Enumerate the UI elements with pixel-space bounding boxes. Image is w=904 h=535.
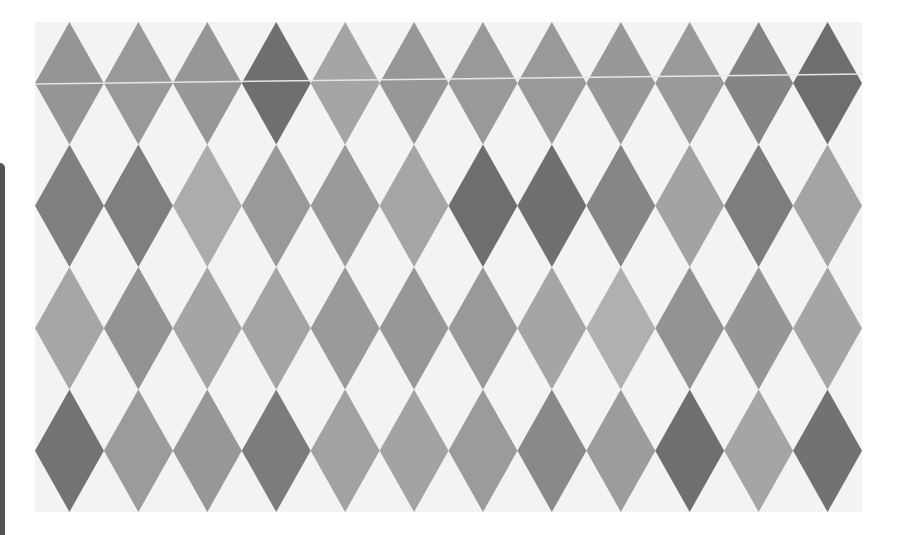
diamond-r3-c12 (793, 267, 862, 390)
diamond-r4-c11 (724, 390, 793, 513)
diamond-r4-c1 (35, 390, 104, 513)
diamond-r2-c4 (242, 145, 311, 268)
diamond-r4-c5 (311, 390, 380, 513)
diamond-r4-c3 (173, 390, 242, 513)
diamond-r4-c7 (449, 390, 518, 513)
diamond-r1-c9 (586, 22, 655, 145)
diamond-r2-c2 (104, 145, 173, 268)
diamond-r3-c2 (104, 267, 173, 390)
diamond-r4-c2 (104, 390, 173, 513)
diamond-r3-c7 (449, 267, 518, 390)
diamond-r4-c12 (793, 390, 862, 513)
diamond-r3-c9 (586, 267, 655, 390)
diamond-r1-c8 (517, 22, 586, 145)
left-edge-bar (0, 163, 5, 535)
diamond-r4-c9 (586, 390, 655, 513)
diamond-r2-c5 (311, 145, 380, 268)
diamond-r3-c10 (655, 267, 724, 390)
diamond-r3-c4 (242, 267, 311, 390)
diamond-r4-c10 (655, 390, 724, 513)
diamond-r1-c11 (724, 22, 793, 145)
diamond-r2-c3 (173, 145, 242, 268)
diamond-r1-c12 (793, 22, 862, 145)
diamond-r4-c6 (380, 390, 449, 513)
diamond-r3-c5 (311, 267, 380, 390)
diamond-r2-c8 (517, 145, 586, 268)
diamond-r2-c10 (655, 145, 724, 268)
diamond-r2-c7 (449, 145, 518, 268)
diamond-r2-c12 (793, 145, 862, 268)
diamond-r3-c8 (517, 267, 586, 390)
diamond-r3-c3 (173, 267, 242, 390)
diamond-r4-c4 (242, 390, 311, 513)
diamond-r1-c5 (311, 22, 380, 145)
diamond-r2-c9 (586, 145, 655, 268)
diamond-r3-c11 (724, 267, 793, 390)
diamond-r1-c7 (449, 22, 518, 145)
diamond-r4-c8 (517, 390, 586, 513)
diamond-r1-c10 (655, 22, 724, 145)
harlequin-diamond-pattern (35, 22, 862, 512)
diamond-r3-c6 (380, 267, 449, 390)
diamond-r3-c1 (35, 267, 104, 390)
diamond-r2-c1 (35, 145, 104, 268)
diamond-r2-c6 (380, 145, 449, 268)
diamond-r1-c3 (173, 22, 242, 145)
diamond-r2-c11 (724, 145, 793, 268)
diamond-r1-c6 (380, 22, 449, 145)
diamond-pattern-panel (35, 22, 862, 512)
screenshot-canvas (0, 0, 904, 535)
diamond-r1-c4 (242, 22, 311, 145)
